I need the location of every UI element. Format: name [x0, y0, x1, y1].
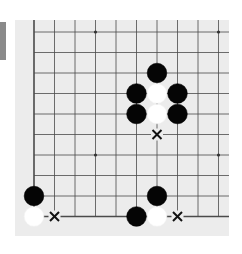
black-stone [168, 84, 188, 104]
black-stone [147, 63, 167, 83]
star-point [94, 30, 97, 33]
white-stone [24, 207, 44, 227]
white-stone [147, 104, 167, 124]
go-board[interactable] [0, 0, 242, 254]
black-stone [127, 84, 147, 104]
star-point [94, 153, 97, 156]
black-stone [127, 207, 147, 227]
star-point [217, 153, 220, 156]
black-stone [168, 104, 188, 124]
black-stone [24, 186, 44, 206]
black-stone [147, 186, 167, 206]
white-stone [147, 84, 167, 104]
star-point [217, 30, 220, 33]
black-stone [127, 104, 147, 124]
white-stone [147, 207, 167, 227]
